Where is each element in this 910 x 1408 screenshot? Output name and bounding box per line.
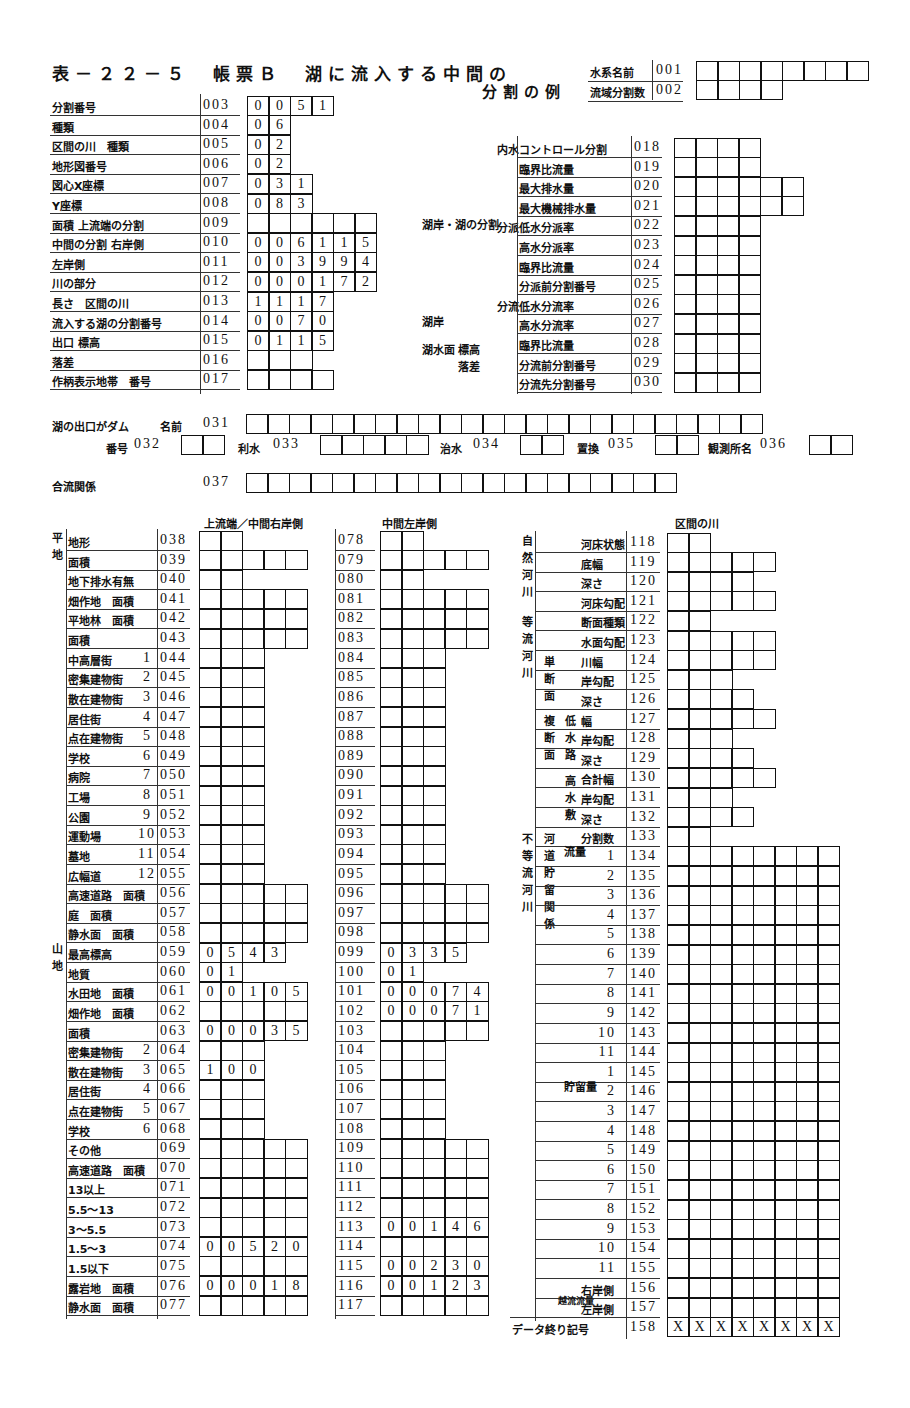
input-cell[interactable] bbox=[667, 1180, 690, 1200]
input-cell[interactable] bbox=[242, 805, 265, 825]
input-cell[interactable] bbox=[688, 1298, 711, 1318]
input-cell[interactable] bbox=[817, 1082, 840, 1102]
input-cell[interactable] bbox=[246, 473, 269, 493]
input-cell[interactable] bbox=[774, 905, 797, 925]
input-cell[interactable] bbox=[353, 414, 376, 434]
input-cell[interactable]: 0 bbox=[247, 331, 270, 351]
input-cell[interactable] bbox=[667, 846, 690, 866]
input-cell[interactable] bbox=[667, 945, 690, 965]
input-cell[interactable] bbox=[423, 668, 446, 688]
input-cell[interactable] bbox=[401, 668, 424, 688]
input-cell[interactable] bbox=[774, 1101, 797, 1121]
input-cell[interactable] bbox=[731, 689, 754, 709]
input-cell[interactable] bbox=[242, 766, 265, 786]
input-cell[interactable] bbox=[817, 1180, 840, 1200]
input-cell[interactable]: X bbox=[796, 1317, 819, 1337]
input-cell[interactable] bbox=[688, 1101, 711, 1121]
input-cell[interactable] bbox=[688, 650, 711, 670]
input-cell[interactable] bbox=[738, 177, 761, 197]
input-cell[interactable] bbox=[796, 925, 819, 945]
input-cell[interactable] bbox=[796, 1121, 819, 1141]
input-cell[interactable] bbox=[285, 903, 308, 923]
input-cell[interactable] bbox=[817, 925, 840, 945]
input-cell[interactable]: 5 bbox=[285, 1021, 308, 1041]
input-cell[interactable] bbox=[380, 903, 403, 923]
input-cell[interactable] bbox=[444, 923, 467, 943]
input-cell[interactable] bbox=[710, 1200, 733, 1220]
input-cell[interactable] bbox=[199, 1080, 222, 1100]
input-cell[interactable] bbox=[738, 275, 761, 295]
input-cell[interactable] bbox=[782, 61, 805, 81]
input-cell[interactable] bbox=[353, 473, 376, 493]
input-cell[interactable] bbox=[202, 435, 225, 455]
input-cell[interactable] bbox=[710, 1062, 733, 1082]
input-cell[interactable] bbox=[220, 1119, 243, 1139]
input-cell[interactable] bbox=[817, 1239, 840, 1259]
input-cell[interactable] bbox=[242, 589, 265, 609]
input-cell[interactable]: 3 bbox=[423, 943, 446, 963]
input-cell[interactable] bbox=[444, 1021, 467, 1041]
input-cell[interactable] bbox=[466, 1139, 489, 1159]
input-cell[interactable] bbox=[774, 1278, 797, 1298]
input-cell[interactable] bbox=[738, 236, 761, 256]
input-cell[interactable] bbox=[674, 353, 697, 373]
input-cell[interactable] bbox=[817, 1160, 840, 1180]
input-cell[interactable]: 8 bbox=[285, 1276, 308, 1296]
input-cell[interactable] bbox=[774, 846, 797, 866]
input-cell[interactable] bbox=[220, 1178, 243, 1198]
input-cell[interactable]: 0 bbox=[247, 233, 270, 253]
input-cell[interactable] bbox=[423, 884, 446, 904]
input-cell[interactable] bbox=[710, 886, 733, 906]
input-cell[interactable] bbox=[242, 844, 265, 864]
input-cell[interactable] bbox=[418, 414, 441, 434]
input-cell[interactable] bbox=[710, 1121, 733, 1141]
input-cell[interactable] bbox=[220, 844, 243, 864]
input-cell[interactable] bbox=[199, 884, 222, 904]
input-cell[interactable] bbox=[667, 729, 690, 749]
input-cell[interactable] bbox=[401, 550, 424, 570]
input-cell[interactable] bbox=[710, 945, 733, 965]
input-cell[interactable] bbox=[753, 1003, 776, 1023]
input-cell[interactable]: 1 bbox=[242, 982, 265, 1002]
input-cell[interactable] bbox=[380, 1041, 403, 1061]
input-cell[interactable] bbox=[444, 1139, 467, 1159]
input-cell[interactable]: 0 bbox=[380, 1256, 403, 1276]
input-cell[interactable] bbox=[667, 611, 690, 631]
input-cell[interactable] bbox=[423, 589, 446, 609]
input-cell[interactable] bbox=[401, 766, 424, 786]
input-cell[interactable] bbox=[695, 255, 718, 275]
input-cell[interactable]: 7 bbox=[290, 311, 313, 331]
input-cell[interactable] bbox=[466, 589, 489, 609]
input-cell[interactable]: 1 bbox=[268, 331, 291, 351]
input-cell[interactable] bbox=[199, 1296, 222, 1316]
input-cell[interactable] bbox=[423, 1237, 446, 1257]
input-cell[interactable] bbox=[688, 572, 711, 592]
input-cell[interactable] bbox=[242, 707, 265, 727]
input-cell[interactable] bbox=[738, 334, 761, 354]
input-cell[interactable] bbox=[267, 414, 290, 434]
input-cell[interactable]: 3 bbox=[466, 1276, 489, 1296]
input-cell[interactable] bbox=[363, 435, 386, 455]
input-cell[interactable] bbox=[220, 1217, 243, 1237]
input-cell[interactable] bbox=[242, 609, 265, 629]
input-cell[interactable] bbox=[674, 334, 697, 354]
input-cell[interactable] bbox=[667, 1239, 690, 1259]
input-cell[interactable]: 7 bbox=[333, 272, 356, 292]
input-cell[interactable] bbox=[199, 1139, 222, 1159]
input-cell[interactable] bbox=[710, 846, 733, 866]
input-cell[interactable]: 0 bbox=[311, 311, 334, 331]
input-cell[interactable] bbox=[695, 294, 718, 314]
input-cell[interactable] bbox=[667, 572, 690, 592]
input-cell[interactable] bbox=[688, 1062, 711, 1082]
input-cell[interactable] bbox=[268, 213, 291, 233]
input-cell[interactable] bbox=[774, 1082, 797, 1102]
input-cell[interactable]: 0 bbox=[247, 174, 270, 194]
input-cell[interactable] bbox=[846, 61, 869, 81]
input-cell[interactable]: 0 bbox=[199, 943, 222, 963]
input-cell[interactable]: 2 bbox=[354, 272, 377, 292]
input-cell[interactable] bbox=[739, 61, 762, 81]
input-cell[interactable] bbox=[242, 864, 265, 884]
input-cell[interactable] bbox=[717, 216, 740, 236]
input-cell[interactable] bbox=[731, 1003, 754, 1023]
input-cell[interactable] bbox=[655, 435, 678, 455]
